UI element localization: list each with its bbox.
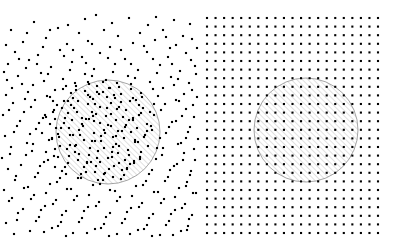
data-point <box>300 215 302 217</box>
data-point <box>120 93 122 95</box>
data-point <box>193 116 195 118</box>
data-point <box>49 183 51 185</box>
data-point <box>206 198 208 200</box>
data-point <box>326 155 328 157</box>
data-point <box>1 157 3 159</box>
data-point <box>70 92 72 94</box>
data-point <box>175 120 177 122</box>
data-point <box>377 180 379 182</box>
data-point <box>165 36 167 38</box>
data-point <box>59 177 61 179</box>
data-point <box>27 186 29 188</box>
data-point <box>360 172 362 174</box>
data-point <box>100 140 102 142</box>
data-point <box>377 146 379 148</box>
data-point <box>257 146 259 148</box>
data-point <box>206 51 208 53</box>
data-point <box>351 155 353 157</box>
data-point <box>377 198 379 200</box>
data-point <box>30 106 32 108</box>
data-point <box>91 140 93 142</box>
data-point <box>317 94 319 96</box>
data-point <box>317 34 319 36</box>
data-point <box>215 120 217 122</box>
data-point <box>351 137 353 139</box>
data-point <box>317 223 319 225</box>
data-point <box>59 49 61 51</box>
data-point <box>57 156 59 158</box>
data-point <box>351 146 353 148</box>
data-point <box>143 45 145 47</box>
data-point <box>334 77 336 79</box>
data-point <box>249 163 251 165</box>
data-point <box>132 97 134 99</box>
data-point <box>92 184 94 186</box>
data-point <box>80 177 82 179</box>
data-point <box>300 120 302 122</box>
data-point <box>16 125 18 127</box>
data-point <box>283 223 285 225</box>
data-point <box>326 51 328 53</box>
data-point <box>74 151 76 153</box>
data-point <box>360 146 362 148</box>
data-point <box>124 126 126 128</box>
data-point <box>67 162 69 164</box>
data-point <box>257 120 259 122</box>
data-point <box>283 77 285 79</box>
data-point <box>368 69 370 71</box>
data-point <box>223 69 225 71</box>
data-point <box>121 130 123 132</box>
data-point <box>95 14 97 16</box>
data-point <box>206 180 208 182</box>
data-point <box>223 232 225 234</box>
data-point <box>58 136 60 138</box>
data-point <box>125 124 127 126</box>
data-point <box>291 198 293 200</box>
data-point <box>360 155 362 157</box>
data-point <box>326 34 328 36</box>
data-point <box>187 225 189 227</box>
data-point <box>232 77 234 79</box>
data-point <box>249 172 251 174</box>
data-point <box>334 112 336 114</box>
data-point <box>129 233 131 235</box>
data-point <box>326 60 328 62</box>
data-point <box>3 71 5 73</box>
data-point <box>377 129 379 131</box>
data-point <box>153 191 155 193</box>
data-point <box>317 198 319 200</box>
data-point <box>48 139 50 141</box>
data-point <box>223 146 225 148</box>
data-point <box>96 85 98 87</box>
data-point <box>368 103 370 105</box>
data-point <box>317 112 319 114</box>
data-point <box>291 60 293 62</box>
data-point <box>52 203 54 205</box>
data-point <box>377 223 379 225</box>
data-point <box>170 213 172 215</box>
data-point <box>368 120 370 122</box>
data-point <box>162 147 164 149</box>
data-point <box>57 225 59 227</box>
data-point <box>377 17 379 19</box>
data-point <box>206 103 208 105</box>
data-point <box>71 119 73 121</box>
data-point <box>300 94 302 96</box>
data-point <box>351 172 353 174</box>
data-point <box>283 34 285 36</box>
data-point <box>249 86 251 88</box>
data-point <box>42 117 44 119</box>
data-point <box>317 129 319 131</box>
data-point <box>72 134 74 136</box>
data-point <box>240 172 242 174</box>
data-point <box>94 171 96 173</box>
data-point <box>69 69 71 71</box>
data-point <box>334 69 336 71</box>
data-point <box>94 228 96 230</box>
data-point <box>309 155 311 157</box>
data-point <box>317 163 319 165</box>
data-point <box>215 17 217 19</box>
data-point <box>274 86 276 88</box>
data-point <box>137 141 139 143</box>
data-point <box>360 94 362 96</box>
